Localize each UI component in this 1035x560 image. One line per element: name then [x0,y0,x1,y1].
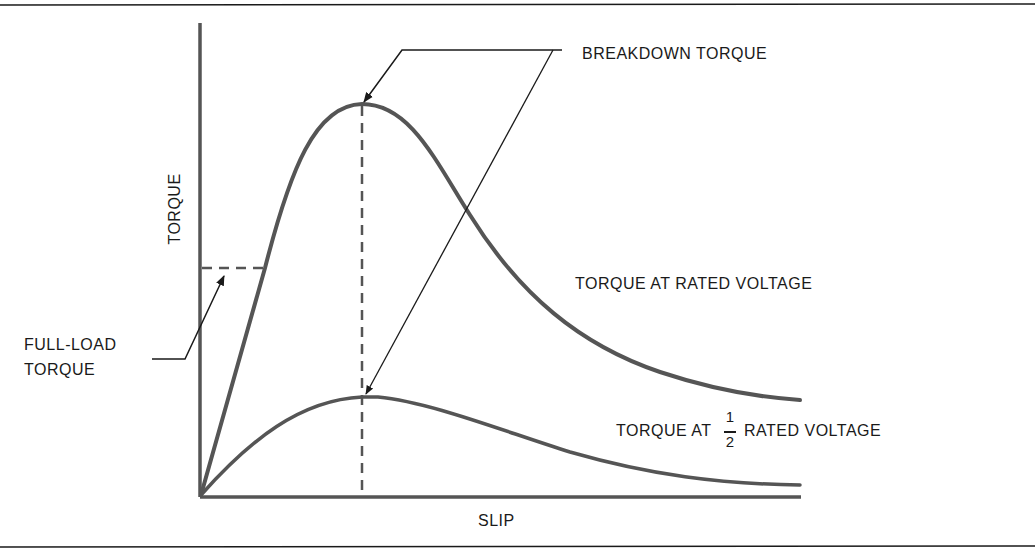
half-voltage-curve [201,397,800,495]
half-voltage-prefix: TORQUE AT [616,422,711,440]
half-voltage-suffix: RATED VOLTAGE [744,422,881,440]
fraction-denominator: 2 [723,433,737,450]
breakdown-leader-upper [364,50,562,102]
full-load-leader [152,276,224,359]
x-axis-label: SLIP [478,512,515,530]
top-border [0,4,1035,5]
full-load-label-line1: FULL-LOAD [24,336,117,354]
breakdown-torque-label: BREAKDOWN TORQUE [582,45,767,63]
bottom-border [0,546,1035,547]
breakdown-leader-lower [366,50,553,394]
rated-voltage-label: TORQUE AT RATED VOLTAGE [575,275,812,293]
torque-slip-diagram [0,0,1035,560]
y-axis-label: TORQUE [166,173,184,244]
fraction-numerator: 1 [723,408,737,425]
full-load-label-line2: TORQUE [24,361,95,379]
